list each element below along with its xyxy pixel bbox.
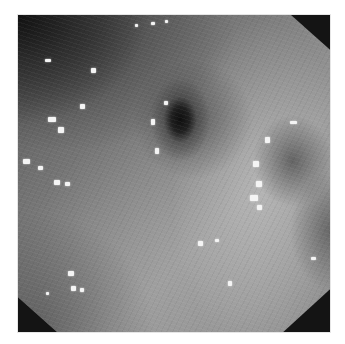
endoscopic-image bbox=[18, 15, 330, 332]
specular-highlight bbox=[215, 239, 219, 242]
specular-highlight bbox=[135, 24, 138, 27]
specular-highlight bbox=[164, 101, 168, 105]
specular-highlight bbox=[311, 257, 316, 260]
specular-highlight bbox=[58, 127, 64, 133]
specular-highlight bbox=[68, 271, 74, 276]
specular-highlight bbox=[151, 119, 155, 125]
specular-highlight bbox=[257, 205, 262, 210]
specular-highlight bbox=[265, 137, 270, 143]
mucosa-texture bbox=[18, 15, 330, 332]
endoscopic-image-frame bbox=[17, 14, 331, 333]
specular-highlight bbox=[80, 288, 84, 292]
specular-highlight bbox=[38, 166, 43, 170]
specular-highlight bbox=[46, 292, 49, 295]
specular-highlight bbox=[48, 117, 56, 122]
specular-highlight bbox=[65, 182, 70, 186]
specular-highlight bbox=[23, 159, 30, 164]
specular-highlight bbox=[155, 148, 159, 154]
specular-highlight bbox=[198, 241, 203, 246]
specular-highlight bbox=[165, 20, 168, 23]
specular-highlight bbox=[80, 104, 85, 109]
specular-highlight bbox=[71, 286, 76, 291]
specular-highlight bbox=[91, 68, 96, 73]
specular-highlight bbox=[54, 180, 60, 185]
specular-highlight bbox=[256, 181, 262, 187]
specular-highlight bbox=[228, 281, 232, 286]
specular-highlight bbox=[250, 195, 258, 201]
specular-highlight bbox=[253, 161, 259, 167]
specular-highlight bbox=[290, 121, 297, 124]
specular-highlight bbox=[151, 22, 155, 25]
specular-highlight bbox=[45, 59, 51, 62]
